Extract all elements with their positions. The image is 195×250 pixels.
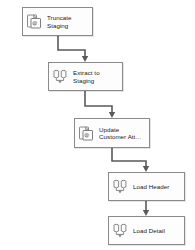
data-flow-task-icon bbox=[52, 68, 69, 85]
data-flow-task-icon bbox=[112, 222, 129, 239]
connector-extract-to-update[interactable] bbox=[85, 91, 112, 116]
task-label: Load Header bbox=[133, 183, 181, 190]
task-node-extract-to-staging[interactable]: Extract to Staging bbox=[48, 62, 123, 91]
task-node-load-detail[interactable]: Load Detail bbox=[108, 216, 185, 245]
data-flow-task-icon bbox=[112, 178, 129, 195]
task-node-truncate-staging[interactable]: Truncate Staging bbox=[22, 7, 93, 36]
connector-update-to-load-header[interactable] bbox=[112, 148, 146, 170]
task-node-update-customer-attributes[interactable]: Update Customer Att… bbox=[74, 118, 150, 148]
execute-sql-task-icon bbox=[78, 125, 95, 142]
execute-sql-task-icon bbox=[26, 13, 43, 30]
task-node-load-header[interactable]: Load Header bbox=[108, 172, 185, 201]
task-label: Truncate Staging bbox=[47, 14, 89, 29]
task-label: Load Detail bbox=[133, 227, 181, 234]
control-flow-canvas[interactable]: Truncate Staging Extract to Staging Upda… bbox=[0, 0, 195, 250]
task-label: Update Customer Att… bbox=[99, 126, 146, 141]
task-label: Extract to Staging bbox=[73, 69, 119, 84]
connector-truncate-to-extract[interactable] bbox=[58, 36, 85, 60]
